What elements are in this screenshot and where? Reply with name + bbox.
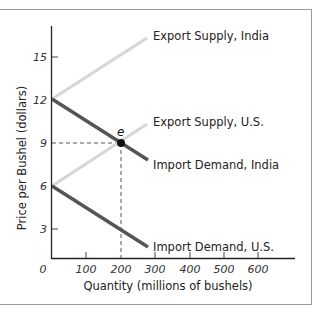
y-axis-title: Price per Bushel (dollars) xyxy=(15,86,29,230)
equilibrium-point-e xyxy=(117,139,125,147)
import-demand-us-label: Import Demand, U.S. xyxy=(153,240,274,254)
x-tick-label-500: 500 xyxy=(214,263,235,276)
x-axis-title: Quantity (millions of bushels) xyxy=(83,279,252,293)
x-tick-label-600: 600 xyxy=(248,263,269,276)
x-tick-label-200: 200 xyxy=(111,263,132,276)
x-tick-label-300: 300 xyxy=(145,263,166,276)
import-demand-india-line xyxy=(52,99,148,160)
point-e-label: e xyxy=(117,125,124,139)
y-tick-label-6: 6 xyxy=(40,180,47,193)
chart-canvas: e 15 12 9 6 3 0 100 200 300 400 500 600 … xyxy=(0,0,325,319)
origin-label: 0 xyxy=(40,263,47,276)
x-tick-label-100: 100 xyxy=(76,263,97,276)
export-supply-india-line xyxy=(52,38,147,99)
export-supply-us-line xyxy=(52,124,147,186)
export-supply-india-label: Export Supply, India xyxy=(153,29,269,43)
y-tick-label-12: 12 xyxy=(33,94,47,107)
export-supply-us-label: Export Supply, U.S. xyxy=(153,115,264,129)
y-tick-label-15: 15 xyxy=(33,51,47,64)
import-demand-india-label: Import Demand, India xyxy=(153,158,279,172)
import-demand-us-line xyxy=(52,186,148,247)
y-tick-label-3: 3 xyxy=(40,223,47,236)
x-tick-label-400: 400 xyxy=(180,263,201,276)
y-tick-label-9: 9 xyxy=(40,137,47,150)
